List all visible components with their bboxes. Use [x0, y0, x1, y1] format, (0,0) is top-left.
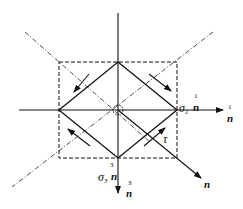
- n-diagonal-label: n: [204, 178, 210, 190]
- sigma1-label: σ1: [179, 101, 188, 116]
- tau-label: τ: [163, 132, 168, 146]
- shear-arrow-lower-right: [144, 128, 165, 146]
- n3-label-inner: n: [111, 170, 117, 182]
- shear-arrow-lower-left: [68, 129, 90, 146]
- shear-arrow-upper-left: [74, 74, 89, 92]
- n1-label-axis: n: [227, 112, 233, 124]
- n3-superscript-inner: 3: [110, 161, 114, 169]
- n3-label-axis: n: [126, 187, 132, 199]
- sigma3-label: σ3: [98, 170, 108, 185]
- n1-superscript-inner: 1: [194, 92, 198, 100]
- n1-superscript-axis: 1: [228, 103, 232, 111]
- shear-arrow-upper-right: [149, 74, 171, 91]
- n3-superscript-axis: 3: [128, 179, 132, 187]
- stress-diagram: σ1 1 n 1 n 3 σ3 n 3 n τ n: [0, 0, 243, 209]
- diagonal-vector-n: [118, 110, 201, 178]
- n1-label-inner: n: [193, 101, 199, 113]
